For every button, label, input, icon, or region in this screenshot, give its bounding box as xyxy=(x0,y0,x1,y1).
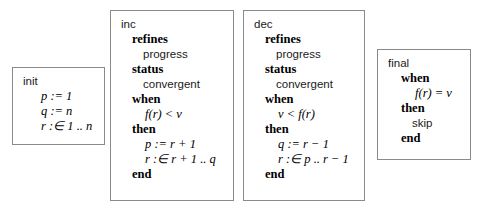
inc-when-keyword: when xyxy=(132,92,225,107)
dec-refines-keyword: refines xyxy=(265,32,356,47)
final-end-keyword: end xyxy=(401,131,462,146)
inc-then-keyword: then xyxy=(132,122,225,137)
final-then-keyword: then xyxy=(401,101,462,116)
dec-then-keyword: then xyxy=(265,122,356,137)
final-guard: f(r) = v xyxy=(415,86,462,101)
dec-action-1: q := r − 1 xyxy=(278,137,356,152)
inc-guard: f(r) < v xyxy=(145,107,225,122)
inc-end-keyword: end xyxy=(132,167,225,182)
dec-refines-value: progress xyxy=(276,47,356,62)
init-action-2: q := n xyxy=(41,104,96,119)
event-box-final[interactable]: final when f(r) = v then skip end xyxy=(377,49,471,160)
event-name-inc: inc xyxy=(121,17,225,32)
diagram-canvas: init p := 1 q := n r :∈ 1 .. n inc refin… xyxy=(0,0,483,208)
event-name-init: init xyxy=(23,74,96,89)
init-action-3: r :∈ 1 .. n xyxy=(41,119,96,134)
init-action-1: p := 1 xyxy=(41,89,96,104)
inc-action-2: r :∈ r + 1 .. q xyxy=(145,152,225,167)
event-box-inc[interactable]: inc refines progress status convergent w… xyxy=(110,10,234,201)
dec-action-2: r :∈ p .. r − 1 xyxy=(278,152,356,167)
inc-status-value: convergent xyxy=(143,77,225,92)
dec-end-keyword: end xyxy=(265,167,356,182)
dec-guard: v < f(r) xyxy=(278,107,356,122)
event-box-dec[interactable]: dec refines progress status convergent w… xyxy=(243,10,365,201)
final-when-keyword: when xyxy=(401,71,462,86)
dec-status-value: convergent xyxy=(276,77,356,92)
event-box-init[interactable]: init p := 1 q := n r :∈ 1 .. n xyxy=(12,67,105,145)
inc-refines-value: progress xyxy=(143,47,225,62)
event-name-final: final xyxy=(388,56,462,71)
final-action: skip xyxy=(412,116,462,131)
dec-status-keyword: status xyxy=(265,62,356,77)
dec-when-keyword: when xyxy=(265,92,356,107)
event-name-dec: dec xyxy=(254,17,356,32)
inc-status-keyword: status xyxy=(132,62,225,77)
inc-action-1: p := r + 1 xyxy=(145,137,225,152)
inc-refines-keyword: refines xyxy=(132,32,225,47)
